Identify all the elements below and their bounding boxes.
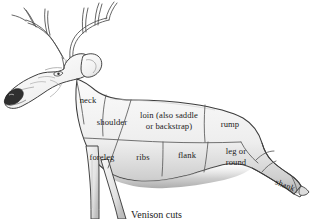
venison-cuts-figure: neck shoulder loin (also saddle or backs… [0,0,313,219]
cut-label-rump[interactable]: rump [211,119,249,130]
figure-caption: Venison cuts [0,209,313,219]
cut-label-shoulder[interactable]: shoulder [85,117,139,128]
cut-label-flank[interactable]: flank [168,150,206,161]
cut-label-loin[interactable]: loin (also saddle or backstrap) [132,110,206,131]
cut-label-foreleg[interactable]: foreleg [80,152,124,163]
cut-label-ribs[interactable]: ribs [126,152,160,163]
cut-label-leg-or-round[interactable]: leg or round [214,146,258,167]
cut-label-neck[interactable]: neck [68,95,108,106]
